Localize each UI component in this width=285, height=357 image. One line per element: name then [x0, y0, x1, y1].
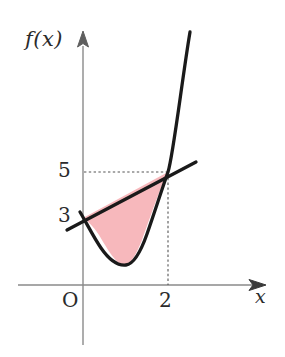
plot-canvas — [0, 0, 285, 357]
function-graph-figure: f(x) x 5 3 O 2 — [0, 0, 285, 357]
x-tick-label-2: 2 — [159, 288, 172, 312]
y-tick-label-5: 5 — [58, 158, 71, 182]
y-tick-label-3: 3 — [58, 203, 71, 227]
y-axis-label: f(x) — [25, 27, 63, 51]
y-axis-arrow-icon — [78, 31, 89, 47]
origin-label: O — [62, 288, 78, 312]
shaded-region — [83, 172, 168, 265]
x-axis-label: x — [255, 285, 266, 307]
